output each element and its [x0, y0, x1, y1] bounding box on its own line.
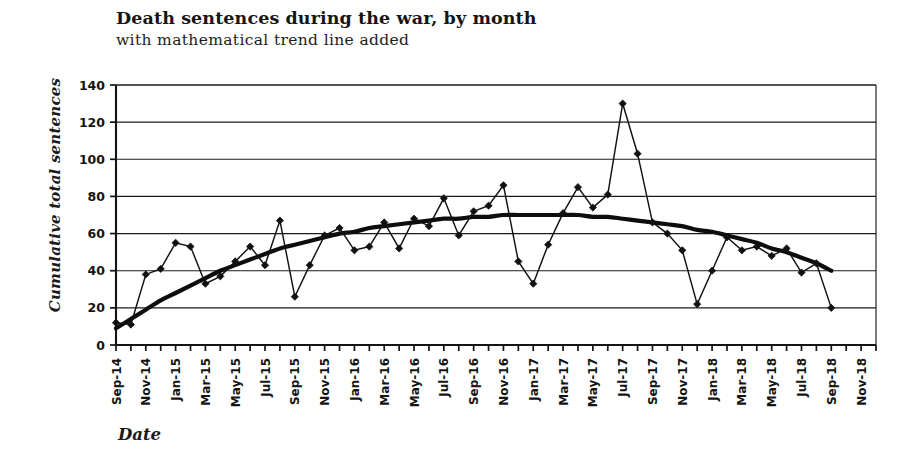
data-point-marker: [276, 217, 283, 224]
x-tick-label: Sep-15: [288, 358, 302, 405]
x-tick-label: Nov-17: [676, 358, 690, 406]
y-tick-label: 40: [88, 263, 106, 278]
data-point-markers: [112, 100, 834, 328]
data-point-marker: [634, 150, 641, 157]
x-tick-label: Mar-18: [735, 358, 749, 406]
x-tick-label: Nov-18: [855, 358, 869, 406]
y-tick-label: 20: [88, 300, 106, 315]
x-tick-label: Nov-14: [139, 358, 153, 406]
data-point-marker: [798, 269, 805, 276]
x-tick-label: Mar-17: [557, 358, 571, 406]
data-point-marker: [187, 243, 194, 250]
data-point-marker: [455, 232, 462, 239]
x-ticks-group: Sep-14Nov-14Jan-15Mar-15May-15Jul-15Sep-…: [110, 345, 877, 407]
y-tick-label: 120: [79, 115, 105, 130]
x-tick-label: Jan-15: [169, 358, 183, 402]
y-tick-label: 60: [88, 226, 106, 241]
data-point-marker: [708, 267, 715, 274]
x-tick-label: Jul-16: [437, 358, 451, 398]
x-tick-label: May-17: [586, 358, 600, 407]
data-point-marker: [545, 241, 552, 248]
data-point-marker: [619, 100, 626, 107]
data-point-marker: [306, 262, 313, 269]
data-point-marker: [470, 208, 477, 215]
x-tick-label: Jan-17: [527, 358, 541, 402]
x-tick-label: Jan-16: [348, 358, 362, 402]
y-tick-label: 140: [79, 78, 105, 93]
x-tick-label: May-18: [765, 358, 779, 407]
x-tick-label: Mar-16: [378, 358, 392, 406]
x-tick-label: Sep-16: [467, 358, 481, 405]
x-tick-label: Sep-14: [110, 358, 124, 405]
x-tick-label: Sep-18: [825, 358, 839, 405]
x-tick-label: May-16: [408, 358, 422, 407]
data-point-marker: [396, 245, 403, 252]
y-tick-label: 0: [96, 338, 105, 353]
plot-area: 020406080100120140 Sep-14Nov-14Jan-15Mar…: [0, 0, 921, 465]
y-tick-label: 100: [79, 152, 105, 167]
x-tick-label: Sep-17: [646, 358, 660, 405]
data-point-marker: [828, 304, 835, 311]
x-tick-label: Mar-15: [199, 358, 213, 406]
data-point-marker: [291, 293, 298, 300]
x-tick-label: Jul-17: [616, 358, 630, 398]
x-tick-label: Nov-15: [318, 358, 332, 406]
data-point-marker: [172, 239, 179, 246]
data-point-marker: [768, 252, 775, 259]
data-point-marker: [425, 223, 432, 230]
data-point-marker: [142, 271, 149, 278]
data-point-marker: [440, 195, 447, 202]
y-tick-label: 80: [88, 189, 106, 204]
x-tick-label: Nov-16: [497, 358, 511, 406]
trend-line-path: [116, 215, 831, 328]
x-tick-label: Jan-18: [706, 358, 720, 402]
data-point-marker: [157, 265, 164, 272]
x-tick-label: May-15: [229, 358, 243, 407]
x-tick-label: Jul-18: [795, 358, 809, 398]
trend-line-series: [116, 215, 831, 328]
y-ticks-group: 020406080100120140: [79, 78, 116, 353]
x-tick-label: Jul-15: [259, 358, 273, 398]
data-point-marker: [694, 301, 701, 308]
data-point-marker: [366, 243, 373, 250]
chart-figure: Death sentences during the war, by month…: [0, 0, 921, 465]
